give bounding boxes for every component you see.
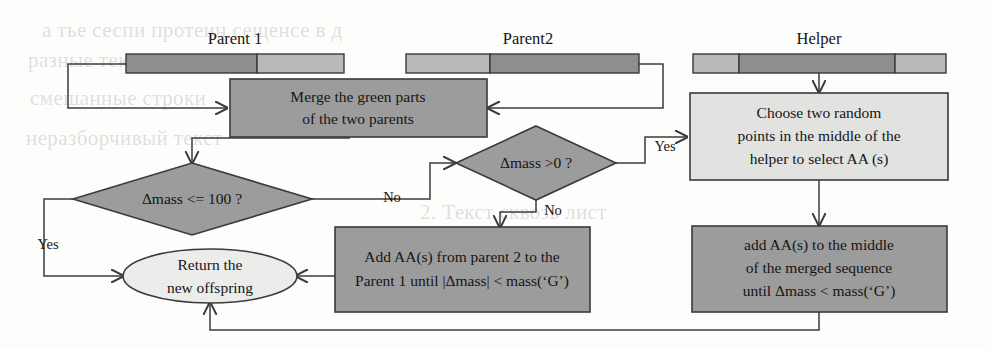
edge-label-yes-to-choose: Yes — [654, 138, 675, 154]
edge-label-yes-to-return: Yes — [37, 236, 58, 252]
edge-label-no-to-add-parent2: No — [544, 202, 562, 218]
add-aa-parent2-line-2: Parent 1 until |Δmass| < mass(‘G’) — [355, 272, 569, 290]
flowchart-canvas: Parent 1 Parent2 Helper Merge the green … — [0, 0, 990, 349]
parent2-light-segment — [406, 54, 490, 73]
add-aa-merged-line-3: until Δmass < mass(‘G’) — [743, 282, 896, 300]
return-offspring-line-2: new offspring — [167, 279, 253, 296]
merge-box-line-2: of the two parents — [302, 110, 413, 127]
helper-light-segment-left — [693, 54, 739, 73]
edge-yes-to-choose — [616, 137, 687, 163]
add-aa-from-parent2-box[interactable]: Add AA(s) from parent 2 to the Parent 1 … — [335, 227, 590, 312]
decision-delta-mass-le-100[interactable]: Δmass <= 100 ? — [73, 163, 312, 235]
decision-gt-0-label: Δmass >0 ? — [500, 154, 572, 171]
edge-label-no-to-gt0: No — [383, 189, 401, 205]
add-aa-parent2-line-1: Add AA(s) from parent 2 to the — [364, 248, 560, 266]
return-offspring-terminal[interactable]: Return the new offspring — [123, 249, 297, 303]
parent2-chromosome: Parent2 — [406, 29, 639, 73]
parent1-chromosome: Parent 1 — [126, 29, 344, 73]
edge-no-to-add-parent2 — [500, 200, 536, 227]
add-aa-to-merged-box[interactable]: add AA(s) to the middle of the merged se… — [692, 226, 947, 312]
choose-points-line-3: helper to select AA (s) — [750, 150, 889, 168]
helper-chromosome: Helper — [693, 29, 946, 73]
parent2-caption: Parent2 — [503, 29, 553, 48]
decision-le-100-label: Δmass <= 100 ? — [142, 190, 242, 207]
choose-points-line-1: Choose two random — [757, 104, 882, 121]
parent2-dark-segment — [490, 54, 639, 73]
merge-box[interactable]: Merge the green parts of the two parents — [230, 79, 487, 137]
helper-dark-segment-middle — [739, 54, 895, 73]
parent1-light-segment — [257, 54, 344, 73]
merge-box-line-1: Merge the green parts — [290, 88, 425, 105]
parent1-caption: Parent 1 — [208, 29, 263, 48]
choose-points-box[interactable]: Choose two random points in the middle o… — [690, 93, 948, 180]
parent1-dark-segment — [126, 54, 257, 73]
helper-caption: Helper — [797, 29, 842, 48]
add-aa-merged-line-2: of the merged sequence — [746, 259, 893, 276]
choose-points-line-2: points in the middle of the — [737, 127, 900, 144]
edge-merge-to-decision-100 — [192, 138, 350, 163]
add-aa-merged-line-1: add AA(s) to the middle — [744, 236, 894, 254]
helper-light-segment-right — [895, 54, 946, 73]
return-offspring-line-1: Return the — [178, 256, 243, 273]
add-aa-parent2-shape — [335, 227, 590, 312]
flowchart-figure: а тье сеспи протеин сещенсе в д разные т… — [0, 0, 990, 349]
